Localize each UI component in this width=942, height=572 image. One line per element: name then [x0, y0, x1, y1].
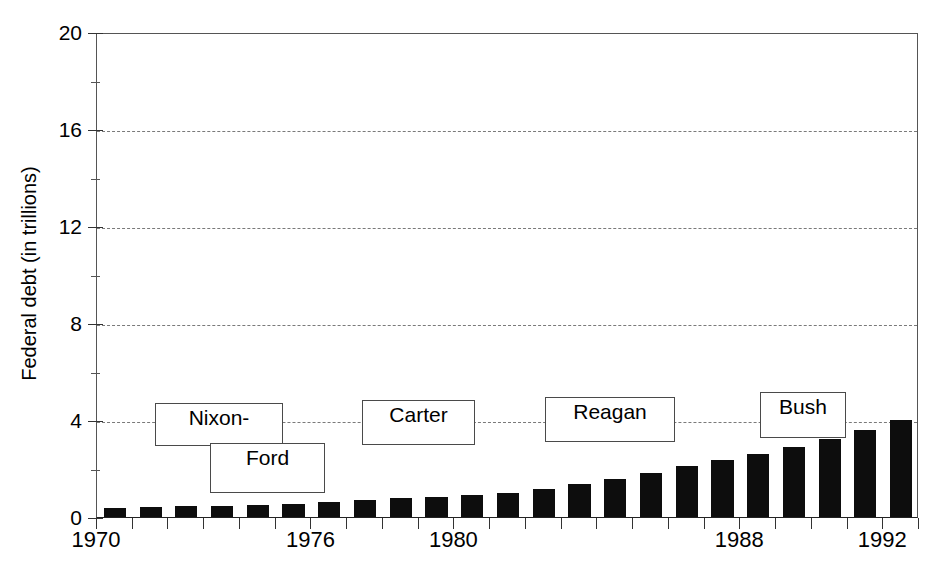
bar-1972 — [175, 506, 197, 517]
bar-1991 — [854, 430, 876, 517]
annotation-label-nixon: Nixon- — [189, 406, 250, 430]
bar-1986 — [676, 466, 698, 517]
bar-1982 — [533, 489, 555, 517]
x-tick-20 — [811, 518, 812, 529]
bar-1980 — [461, 495, 483, 517]
bar-1977 — [354, 500, 376, 517]
bar-1992 — [890, 420, 912, 517]
bar-1970 — [104, 508, 126, 517]
y-tick-label-12: 12 — [32, 216, 82, 237]
y-tick-minor-10 — [91, 276, 100, 277]
gridline-y-16 — [97, 131, 917, 132]
federal-debt-bar-chart: Federal debt (in trillions) 048121620 19… — [0, 0, 942, 572]
bar-1985 — [640, 473, 662, 517]
bar-1989 — [783, 447, 805, 517]
x-tick-15 — [632, 518, 633, 529]
bar-1976 — [318, 502, 340, 517]
gridline-y-12 — [97, 228, 917, 229]
y-tick-label-16: 16 — [32, 119, 82, 140]
bar-1979 — [425, 497, 447, 517]
x-tick-14 — [596, 518, 597, 529]
x-tick-23 — [918, 518, 919, 529]
annotation-box-reagan: Reagan — [545, 397, 675, 442]
x-tick-3 — [203, 518, 204, 529]
x-tick-label-1976: 1976 — [275, 528, 345, 552]
y-tick-major-8 — [88, 324, 103, 325]
y-tick-major-12 — [88, 227, 103, 228]
y-tick-label-8: 8 — [32, 313, 82, 334]
bar-1987 — [711, 460, 733, 517]
annotation-box-carter: Carter — [362, 400, 475, 445]
gridline-y-8 — [97, 325, 917, 326]
annotation-label-ford: Ford — [246, 446, 289, 470]
y-tick-minor-14 — [91, 179, 100, 180]
y-tick-minor-18 — [91, 82, 100, 83]
y-tick-label-4: 4 — [32, 410, 82, 431]
x-tick-2 — [167, 518, 168, 529]
x-tick-13 — [561, 518, 562, 529]
y-axis-tick-labels: 048121620 — [20, 0, 82, 572]
bar-1988 — [747, 454, 769, 517]
x-tick-label-1992: 1992 — [847, 528, 917, 552]
x-tick-label-1980: 1980 — [418, 528, 488, 552]
bar-1984 — [604, 479, 626, 517]
annotation-box-bush: Bush — [760, 392, 846, 438]
x-tick-label-1988: 1988 — [704, 528, 774, 552]
annotation-label-reagan: Reagan — [573, 400, 647, 424]
annotation-label-carter: Carter — [389, 403, 447, 427]
y-tick-label-0: 0 — [32, 507, 82, 528]
y-tick-major-16 — [88, 130, 103, 131]
bar-1974 — [247, 505, 269, 517]
x-tick-4 — [239, 518, 240, 529]
annotation-box-ford: Ford — [210, 443, 325, 493]
annotation-box-nixon: Nixon- — [155, 403, 283, 446]
y-tick-major-4 — [88, 421, 103, 422]
bar-1981 — [497, 493, 519, 517]
bar-1978 — [390, 498, 412, 517]
annotation-label-bush: Bush — [779, 395, 827, 419]
bar-1971 — [140, 507, 162, 517]
y-tick-minor-2 — [91, 470, 100, 471]
x-tick-label-1970: 1970 — [61, 528, 131, 552]
x-tick-16 — [668, 518, 669, 529]
y-tick-label-20: 20 — [32, 22, 82, 43]
x-tick-12 — [525, 518, 526, 529]
y-tick-major-20 — [88, 33, 103, 34]
x-tick-1 — [132, 518, 133, 529]
bar-1990 — [819, 439, 841, 517]
bar-1973 — [211, 506, 233, 517]
x-tick-11 — [489, 518, 490, 529]
x-tick-7 — [346, 518, 347, 529]
y-tick-minor-6 — [91, 373, 100, 374]
x-tick-19 — [775, 518, 776, 529]
bar-1975 — [282, 504, 304, 517]
bar-1983 — [568, 484, 590, 517]
x-tick-8 — [382, 518, 383, 529]
